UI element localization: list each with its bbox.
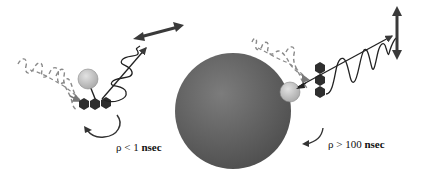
relation: <: [124, 141, 130, 153]
unit: nsec: [364, 138, 384, 150]
fluorophore-icon: [79, 97, 111, 110]
value: 100: [345, 138, 362, 150]
free-tracer-panel: [18, 22, 184, 137]
rotational-correlation-label-bound: ρ > 100 nsec: [328, 138, 385, 150]
polarization-double-arrow-icon: [133, 22, 184, 41]
value: 1: [133, 141, 139, 153]
relation: >: [336, 138, 342, 150]
unit: nsec: [141, 141, 161, 153]
rho-symbol: ρ: [116, 141, 122, 153]
small-sphere-icon: [280, 82, 300, 102]
small-sphere-icon: [78, 69, 98, 89]
rotation-arrow-icon: [84, 115, 120, 137]
fluorophore-icon: [315, 62, 325, 98]
rho-symbol: ρ: [328, 138, 334, 150]
rotational-correlation-label-free: ρ < 1 nsec: [116, 141, 162, 153]
emission-sine-wave-icon: [326, 38, 396, 94]
excitation-wave-icon: [18, 59, 80, 110]
emission-helix-icon: [102, 46, 146, 102]
large-sphere-icon: [175, 53, 291, 169]
rotation-arrow-icon: [302, 128, 323, 147]
polarization-double-arrow-icon: [392, 6, 402, 60]
